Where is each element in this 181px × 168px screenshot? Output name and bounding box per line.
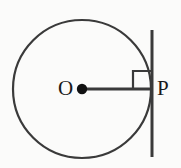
geometry-canvas — [0, 0, 181, 168]
geometry-figure: O P — [0, 0, 181, 168]
center-label-o: O — [58, 78, 73, 99]
tangent-point-label-p: P — [157, 78, 169, 99]
center-point-dot — [77, 84, 87, 94]
